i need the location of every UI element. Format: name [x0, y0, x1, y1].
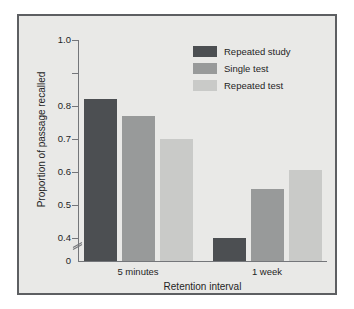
bar-repeated-study-1-week [213, 238, 246, 261]
legend-item-label: Repeated study [224, 46, 291, 57]
chart-figure-frame: 1.00.80.70.60.50.40 Proportion of passag… [17, 14, 337, 295]
bar-single-test-5-minutes [122, 116, 155, 261]
legend-item: Repeated test [193, 78, 291, 93]
legend-swatch-icon [193, 63, 217, 74]
legend-item-label: Single test [224, 63, 268, 74]
legend-item: Single test [193, 61, 291, 76]
bar-single-test-1-week [251, 189, 284, 262]
bar-repeated-study-5-minutes [84, 99, 117, 261]
chart-legend: Repeated studySingle testRepeated test [193, 44, 291, 95]
legend-item-label: Repeated test [224, 80, 283, 91]
legend-swatch-icon [193, 46, 217, 57]
legend-item: Repeated study [193, 44, 291, 59]
chart-plot-area: 1.00.80.70.60.50.40 Proportion of passag… [19, 16, 335, 293]
bar-repeated-test-5-minutes [160, 139, 193, 261]
legend-swatch-icon [193, 80, 217, 91]
bar-repeated-test-1-week [289, 170, 322, 261]
